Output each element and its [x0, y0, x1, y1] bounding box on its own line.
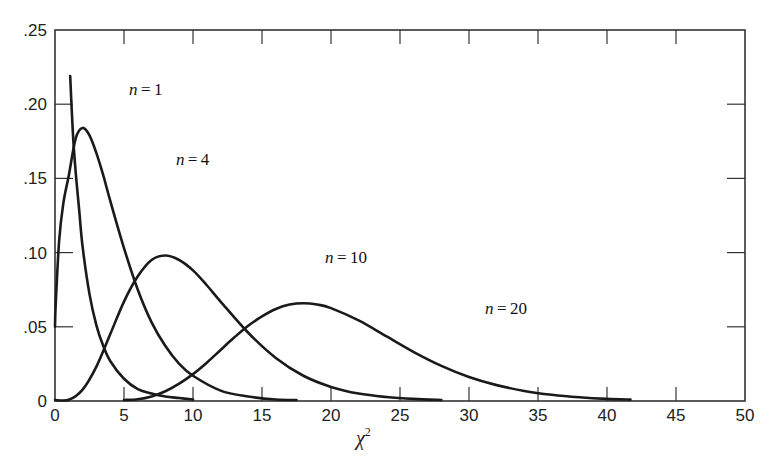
curve-label-value: = 20 — [494, 299, 527, 318]
x-tick-label: 25 — [391, 406, 410, 425]
curve-n1 — [70, 76, 193, 400]
y-tick-label: .25 — [23, 21, 47, 40]
curve-label-variable: n — [129, 80, 138, 99]
x-axis-tick-labels: 05101520253035404550 — [50, 406, 754, 425]
x-tick-label: 20 — [322, 406, 341, 425]
curve-label-value: = 1 — [138, 80, 163, 99]
curve-label-variable: n — [485, 299, 494, 318]
chi-square-density-chart: 05101520253035404550 0.05.10.15.20.25 n … — [0, 0, 775, 462]
x-tick-label: 45 — [667, 406, 686, 425]
density-curves — [55, 76, 630, 401]
y-tick-label: .20 — [23, 95, 47, 114]
x-tick-label: 35 — [529, 406, 548, 425]
y-tick-label: .05 — [23, 318, 47, 337]
curve-label: n = 10 — [325, 248, 367, 267]
curve-label-variable: n — [325, 248, 334, 267]
x-tick-label: 10 — [184, 406, 203, 425]
x-axis-title: χ2 — [354, 425, 371, 450]
curve-label-value: = 10 — [334, 248, 367, 267]
curve-label: n = 1 — [129, 80, 162, 99]
curve-n10 — [55, 256, 441, 401]
curve-label: n = 20 — [485, 299, 527, 318]
x-tick-label: 50 — [736, 406, 755, 425]
y-tick-label: 0 — [38, 392, 47, 411]
x-tick-label: 0 — [50, 406, 59, 425]
y-tick-label: .15 — [23, 169, 47, 188]
curve-n20 — [124, 303, 630, 400]
x-tick-label: 15 — [253, 406, 272, 425]
curve-label-variable: n — [176, 150, 185, 169]
x-tick-label: 5 — [119, 406, 128, 425]
curve-label-value: = 4 — [184, 150, 209, 169]
curve-label: n = 4 — [176, 150, 210, 169]
x-tick-label: 30 — [460, 406, 479, 425]
x-tick-label: 40 — [598, 406, 617, 425]
curve-labels: n = 1n = 4n = 10n = 20 — [129, 80, 527, 317]
x-axis-title-superscript: 2 — [365, 425, 371, 439]
y-tick-label: .10 — [23, 244, 47, 263]
y-axis-tick-labels: 0.05.10.15.20.25 — [23, 21, 47, 411]
